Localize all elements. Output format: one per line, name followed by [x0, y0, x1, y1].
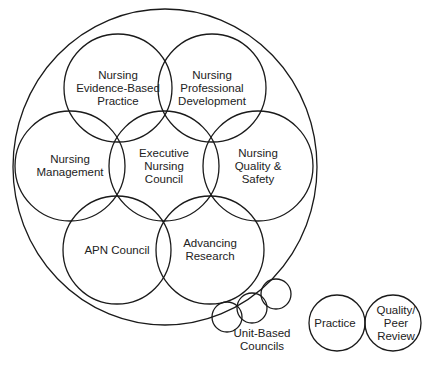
peer-label: Quality/ Peer Review	[377, 304, 416, 343]
quality-label: Nursing Quality & Safety	[235, 147, 282, 186]
unit-based-label: Unit-Based Councils	[234, 327, 291, 353]
unit-based-circle	[261, 279, 291, 309]
research-label: Advancing Research	[183, 237, 237, 263]
council-structure-diagram	[0, 0, 433, 367]
professional-label: Nursing Professional Development	[178, 69, 246, 108]
management-label: Nursing Management	[36, 153, 103, 179]
evidence-label: Nursing Evidence-Based Practice	[76, 69, 160, 108]
practice-label: Practice	[314, 317, 356, 330]
apn-label: APN Council	[84, 244, 149, 257]
executive-label: Executive Nursing Council	[139, 147, 189, 186]
unit-based-circle	[237, 293, 267, 323]
